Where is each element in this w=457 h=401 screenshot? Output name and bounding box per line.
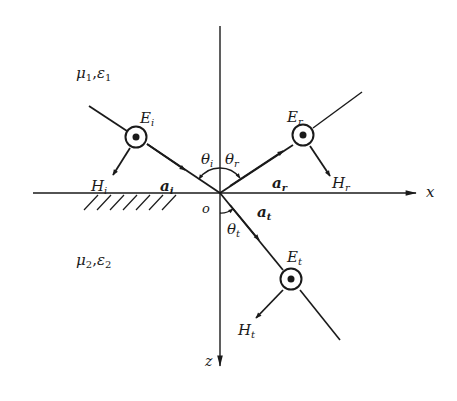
medium1-label: μ1,ε1: [76, 64, 111, 83]
incident-e-label: Ei: [139, 109, 154, 128]
transmitted-h-label: Ht: [237, 321, 256, 340]
incident-h-label: Hi: [90, 177, 107, 196]
z-axis-label: z: [204, 353, 213, 369]
transmitted-e-label: Et: [286, 248, 303, 267]
transmitted-direction-label: at: [257, 203, 272, 222]
h-field-arrow: [310, 146, 330, 176]
reflected-h-label: Hr: [331, 174, 351, 193]
reflected-direction-label: ar: [272, 174, 288, 193]
incident-angle-label: θi: [201, 150, 213, 169]
wave-diagram: μ1,ε1 μ2,ε2 Ei Hi ai θi Er Hr ar θr Et H…: [0, 0, 457, 401]
labels: μ1,ε1 μ2,ε2 Ei Hi ai θi Er Hr ar θr Et H…: [76, 64, 435, 369]
transmitted-wave: [220, 193, 340, 340]
x-axis-label: x: [426, 183, 435, 201]
boundary-hatch: [84, 195, 176, 210]
origin-label: o: [202, 201, 210, 216]
h-field-arrow: [113, 148, 130, 175]
incident-direction-label: ai: [160, 177, 174, 196]
h-field-arrow: [256, 290, 283, 318]
medium2-label: μ2,ε2: [76, 251, 111, 270]
reflected-angle-label: θr: [225, 150, 240, 169]
transmitted-angle-label: θt: [227, 220, 241, 239]
reflected-e-label: Er: [286, 108, 304, 127]
